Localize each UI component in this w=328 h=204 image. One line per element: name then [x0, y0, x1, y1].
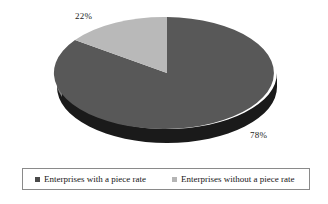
chart-legend: Enterprises with a piece rate Enterprise… — [22, 168, 310, 190]
pie-label-dark-slice: 78% — [250, 130, 267, 140]
chart-page: 22% 78% Enterprises with a piece rate En… — [0, 0, 328, 204]
pie-chart: 22% 78% — [0, 0, 328, 162]
pie-chart-svg — [0, 0, 328, 162]
legend-item-with-piece-rate[interactable]: Enterprises with a piece rate — [35, 175, 146, 184]
legend-swatch-icon-with-piece-rate — [35, 177, 40, 182]
legend-item-without-piece-rate[interactable]: Enterprises without a piece rate — [172, 175, 294, 184]
legend-swatch-icon-without-piece-rate — [172, 177, 177, 182]
legend-label-with-piece-rate: Enterprises with a piece rate — [44, 175, 146, 184]
legend-label-without-piece-rate: Enterprises without a piece rate — [181, 175, 294, 184]
pie-label-light-slice: 22% — [75, 11, 92, 21]
